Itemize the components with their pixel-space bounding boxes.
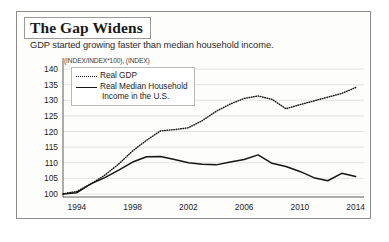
- x-tick-label: 2002: [179, 202, 198, 212]
- x-tick-label: 1998: [123, 202, 142, 212]
- y-tick-label: 125: [44, 111, 58, 121]
- y-tick-label: 120: [44, 127, 58, 137]
- y-tick-label: 105: [44, 173, 58, 183]
- line-chart-plot: 100105110115120125130135140 199419982002…: [17, 12, 370, 218]
- y-tick-label: 100: [44, 189, 58, 199]
- y-tick-label: 140: [44, 64, 58, 74]
- legend-label-income-line2: Income in the U.S.: [100, 91, 169, 101]
- y-axis-tick-labels: 100105110115120125130135140: [44, 64, 58, 199]
- y-tick-label: 115: [45, 142, 59, 152]
- legend-item-gdp: Real GDP: [76, 71, 188, 81]
- chart-legend: Real GDP Real Median HouseholdIncome in …: [71, 67, 195, 106]
- x-tick-label: 2014: [346, 202, 365, 212]
- x-tick-label: 1994: [68, 202, 87, 212]
- x-axis-tick-labels: 199419982002200620102014: [68, 202, 366, 212]
- solid-line-icon: [76, 82, 97, 92]
- legend-label-income: Real Median HouseholdIncome in the U.S.: [100, 82, 188, 101]
- dotted-line-icon: [76, 71, 97, 81]
- y-tick-label: 135: [44, 80, 58, 90]
- x-tick-label: 2006: [235, 202, 254, 212]
- y-tick-label: 110: [45, 158, 59, 168]
- legend-label-gdp: Real GDP: [100, 71, 137, 81]
- legend-label-income-line1: Real Median Household: [100, 81, 188, 91]
- legend-item-income: Real Median HouseholdIncome in the U.S.: [76, 82, 188, 101]
- x-tick-label: 2010: [291, 202, 310, 212]
- y-tick-label: 130: [44, 95, 58, 105]
- chart-figure: The Gap Widens GDP started growing faste…: [16, 11, 371, 219]
